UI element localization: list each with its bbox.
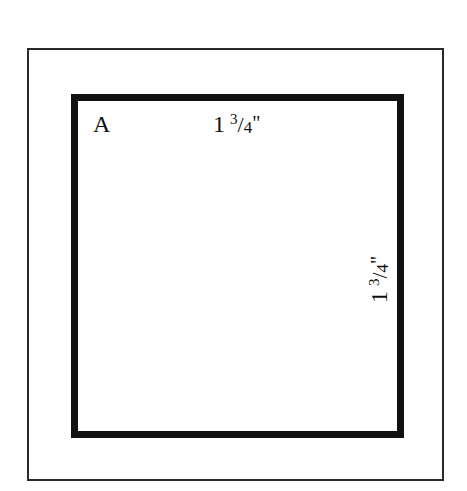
width-dimension-label: 13/4" xyxy=(213,112,260,139)
height-denominator: 4 xyxy=(373,264,392,273)
height-dimension-label: 13/4" xyxy=(367,237,391,303)
height-whole: 1 xyxy=(366,291,392,303)
width-slash: / xyxy=(238,112,244,137)
width-whole: 1 xyxy=(213,111,225,137)
width-denominator: 4 xyxy=(244,118,253,137)
template-square-a xyxy=(71,94,404,438)
height-unit: " xyxy=(367,256,389,264)
height-numerator: 3 xyxy=(366,279,382,287)
piece-label: A xyxy=(93,112,110,136)
width-unit: " xyxy=(252,112,260,134)
width-numerator: 3 xyxy=(230,111,238,127)
